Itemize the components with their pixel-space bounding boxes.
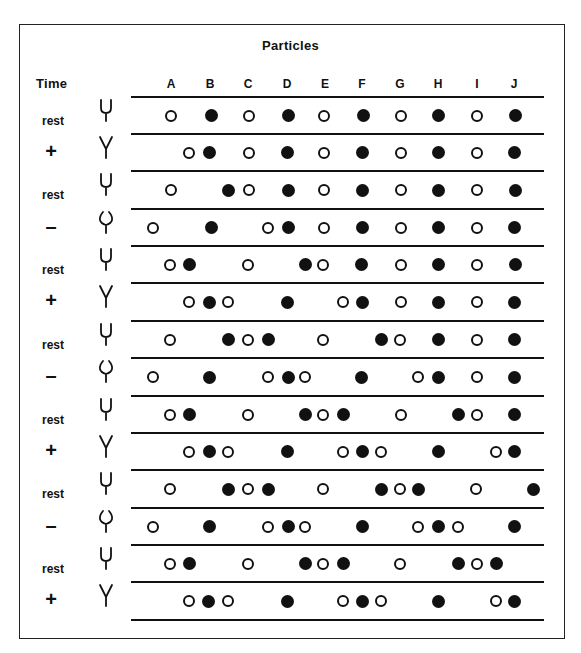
row-divider <box>131 432 544 434</box>
filled-particle-icon <box>357 109 370 122</box>
filled-particle-icon <box>183 408 196 421</box>
filled-particle-icon <box>432 221 445 234</box>
open-particle-icon <box>471 222 483 234</box>
filled-particle-icon <box>356 595 369 608</box>
tuning-fork-minus-icon <box>96 210 116 234</box>
filled-particle-icon <box>262 333 275 346</box>
open-particle-icon <box>164 483 176 495</box>
row-divider <box>131 507 544 509</box>
filled-particle-icon <box>282 109 295 122</box>
filled-particle-icon <box>281 146 294 159</box>
filled-particle-icon <box>299 557 312 570</box>
row-divider <box>131 245 544 247</box>
open-particle-icon <box>395 184 407 196</box>
open-particle-icon <box>222 296 234 308</box>
row-divider <box>131 619 544 621</box>
open-particle-icon <box>490 446 502 458</box>
time-label: rest <box>28 188 78 202</box>
filled-particle-icon <box>183 557 196 570</box>
filled-particle-icon <box>183 258 196 271</box>
row-divider <box>131 581 544 583</box>
filled-particle-icon <box>356 520 369 533</box>
open-particle-icon <box>412 371 424 383</box>
column-header-d: D <box>277 77 297 91</box>
filled-particle-icon <box>205 109 218 122</box>
open-particle-icon <box>317 259 329 271</box>
open-particle-icon <box>242 483 254 495</box>
filled-particle-icon <box>222 184 235 197</box>
open-particle-icon <box>262 371 274 383</box>
filled-particle-icon <box>281 595 294 608</box>
filled-particle-icon <box>508 445 521 458</box>
open-particle-icon <box>318 222 330 234</box>
row-divider <box>131 282 544 284</box>
open-particle-icon <box>243 147 255 159</box>
open-particle-icon <box>147 371 159 383</box>
open-particle-icon <box>395 222 407 234</box>
filled-particle-icon <box>432 146 445 159</box>
open-particle-icon <box>395 110 407 122</box>
open-particle-icon <box>299 521 311 533</box>
tuning-fork-rest-icon <box>96 98 116 122</box>
open-particle-icon <box>262 222 274 234</box>
column-header-e: E <box>315 77 335 91</box>
row-divider <box>131 208 544 210</box>
column-header-j: J <box>504 77 524 91</box>
time-label: + <box>26 289 76 312</box>
tuning-fork-minus-icon <box>96 359 116 383</box>
filled-particle-icon <box>202 595 215 608</box>
filled-particle-icon <box>412 483 425 496</box>
open-particle-icon <box>242 259 254 271</box>
filled-particle-icon <box>527 483 540 496</box>
open-particle-icon <box>394 483 406 495</box>
open-particle-icon <box>242 558 254 570</box>
filled-particle-icon <box>452 408 465 421</box>
open-particle-icon <box>318 110 330 122</box>
open-particle-icon <box>337 296 349 308</box>
filled-particle-icon <box>432 296 445 309</box>
filled-particle-icon <box>356 184 369 197</box>
open-particle-icon <box>375 446 387 458</box>
open-particle-icon <box>337 446 349 458</box>
tuning-fork-minus-icon <box>96 509 116 533</box>
open-particle-icon <box>147 222 159 234</box>
filled-particle-icon <box>432 595 445 608</box>
open-particle-icon <box>394 334 406 346</box>
filled-particle-icon <box>356 221 369 234</box>
filled-particle-icon <box>508 595 521 608</box>
open-particle-icon <box>471 110 483 122</box>
filled-particle-icon <box>205 221 218 234</box>
filled-particle-icon <box>432 520 445 533</box>
filled-particle-icon <box>432 184 445 197</box>
row-divider <box>131 395 544 397</box>
column-header-b: B <box>200 77 220 91</box>
filled-particle-icon <box>509 184 522 197</box>
filled-particle-icon <box>281 296 294 309</box>
open-particle-icon <box>165 184 177 196</box>
column-header-a: A <box>161 77 181 91</box>
open-particle-icon <box>471 147 483 159</box>
column-header-h: H <box>428 77 448 91</box>
open-particle-icon <box>183 147 195 159</box>
open-particle-icon <box>471 334 483 346</box>
row-divider <box>131 170 544 172</box>
open-particle-icon <box>164 558 176 570</box>
filled-particle-icon <box>299 408 312 421</box>
filled-particle-icon <box>222 333 235 346</box>
open-particle-icon <box>470 483 482 495</box>
open-particle-icon <box>222 446 234 458</box>
time-label: + <box>26 439 76 462</box>
column-header-g: G <box>390 77 410 91</box>
open-particle-icon <box>395 409 407 421</box>
tuning-fork-plus-icon <box>96 284 116 308</box>
filled-particle-icon <box>508 146 521 159</box>
open-particle-icon <box>471 296 483 308</box>
open-particle-icon <box>395 259 407 271</box>
open-particle-icon <box>242 409 254 421</box>
filled-particle-icon <box>508 296 521 309</box>
filled-particle-icon <box>508 371 521 384</box>
diagram-title: Particles <box>0 38 581 53</box>
filled-particle-icon <box>355 258 368 271</box>
open-particle-icon <box>164 409 176 421</box>
open-particle-icon <box>395 147 407 159</box>
